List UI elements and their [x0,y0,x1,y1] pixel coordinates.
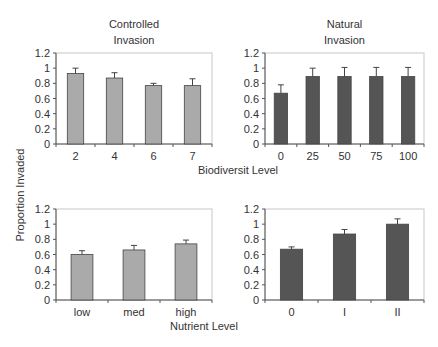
y-tick-label: 1 [44,62,50,74]
bar-75 [370,77,383,144]
x-tick-label: 0 [288,306,294,318]
bar-I [333,234,355,300]
y-tick-label: 0.8 [35,233,50,245]
x-tick-label: II [394,306,400,318]
x-tick-label: 75 [370,150,382,162]
x-tick-label: 2 [72,150,78,162]
y-tick-label: 0 [253,294,259,306]
bar-med [123,250,145,300]
bar-low [71,255,93,301]
y-tick-label: 0 [44,138,50,150]
bar-4 [106,78,122,144]
chart-title: Invasion [324,34,365,46]
x-tick-label: 6 [150,150,156,162]
x-tick-label: med [123,306,144,318]
y-tick-label: 0.6 [244,249,259,261]
y-tick-label: 0 [44,294,50,306]
y-tick-label: 0.6 [35,93,50,105]
bar-0 [280,249,302,300]
chart-title: Controlled [109,18,159,30]
bar-25 [306,77,319,144]
y-tick-label: 1.2 [35,47,50,59]
y-tick-label: 1 [44,218,50,230]
y-tick-label: 0.8 [244,233,259,245]
bar-high [175,244,197,300]
x-tick-label: 25 [307,150,319,162]
bar-100 [401,77,414,144]
y-tick-label: 0.2 [35,279,50,291]
y-tick-label: 0.4 [244,264,259,276]
y-tick-label: 0.2 [35,123,50,135]
bar-2 [67,73,83,144]
y-tick-label: 0.2 [244,123,259,135]
x-tick-label: 4 [111,150,117,162]
chart-title: Natural [327,18,362,30]
bar-7 [184,86,200,144]
figure-canvas: 00.20.40.60.811.22467ControlledInvasion0… [0,0,438,347]
chart-panel-nutrient-light: 00.20.40.60.811.2lowmedhigh [35,203,212,318]
bar-6 [145,86,161,144]
x-tick-label: high [176,306,197,318]
chart-title: Invasion [114,34,155,46]
x-tick-label: 100 [399,150,417,162]
bar-II [386,224,408,300]
x-tick-label: 7 [189,150,195,162]
y-tick-label: 0.8 [244,77,259,89]
y-tick-label: 0.8 [35,77,50,89]
bar-0 [274,93,287,144]
x-tick-label: I [343,306,346,318]
y-tick-label: 1.2 [244,47,259,59]
y-tick-label: 0.6 [244,93,259,105]
x-tick-label: 50 [338,150,350,162]
y-tick-label: 0.6 [35,249,50,261]
x-tick-label: 0 [278,150,284,162]
bar-50 [338,77,351,144]
y-tick-label: 1 [253,62,259,74]
y-tick-label: 0 [253,138,259,150]
y-tick-label: 0.2 [244,279,259,291]
y-tick-label: 0.4 [35,264,50,276]
y-axis-label: Proportion Invaded [14,149,26,242]
y-tick-label: 0.4 [244,108,259,120]
y-tick-label: 1 [253,218,259,230]
chart-panel-nutrient-dark: 00.20.40.60.811.20III [244,203,424,318]
chart-panel-controlled-invasion: 00.20.40.60.811.22467ControlledInvasion [35,18,212,162]
y-tick-label: 1.2 [244,203,259,215]
x-axis-label-nutrient: Nutrient Level [170,320,238,332]
y-tick-label: 0.4 [35,108,50,120]
y-tick-label: 1.2 [35,203,50,215]
x-axis-label-biodiversity: Biodiversit Level [198,164,278,176]
x-tick-label: low [74,306,91,318]
chart-panel-natural-invasion: 00.20.40.60.811.20255075100NaturalInvasi… [244,18,424,162]
